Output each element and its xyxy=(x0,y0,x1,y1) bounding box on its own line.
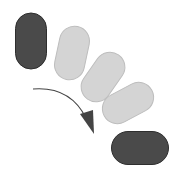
capsule-shape-end xyxy=(112,132,169,165)
capsule-shape-start xyxy=(16,13,47,69)
rotation-diagram xyxy=(0,0,176,170)
capsule-shape-step-1 xyxy=(52,23,93,82)
arrowhead-icon xyxy=(80,110,94,134)
arrow-curve xyxy=(33,89,86,118)
